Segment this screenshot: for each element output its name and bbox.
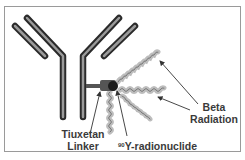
tiuxetan-linker-label: Tiuxetan Linker [57, 128, 109, 152]
linker-label-line2: Linker [57, 140, 109, 152]
isotope-number: 90 [118, 142, 125, 148]
antibody-icon [15, 18, 135, 117]
radionuclide-text: Y-radionuclide [125, 140, 197, 152]
linker-label-line1: Tiuxetan [57, 128, 109, 140]
beta-label-line2: Radiation [186, 113, 242, 125]
radionuclide-label: 90Y-radionuclide [118, 140, 208, 152]
pointer-arrows [90, 61, 198, 136]
beta-radiation-label: Beta Radiation [186, 101, 242, 125]
linker-and-radionuclide [86, 80, 118, 91]
antibody-diagram [0, 0, 245, 160]
beta-label-line1: Beta [186, 101, 242, 113]
